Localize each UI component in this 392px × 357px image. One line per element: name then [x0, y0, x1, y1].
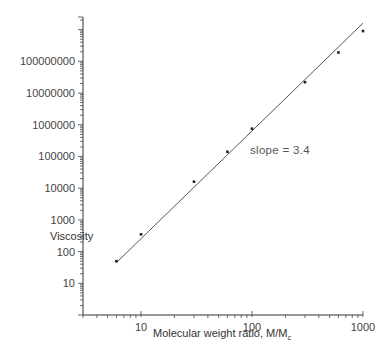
y-tick-label: 1000 [51, 214, 75, 226]
y-tick-label: 100000 [38, 150, 75, 162]
y-tick-label: 100000000 [20, 55, 75, 67]
data-point [193, 180, 196, 183]
slope-annotation: slope = 3.4 [250, 144, 310, 156]
data-point [362, 30, 365, 33]
data-point [304, 81, 307, 84]
data-series [115, 23, 364, 262]
y-tick-label: 100 [57, 246, 75, 258]
y-axis-label: Viscosity [50, 230, 94, 242]
y-tick-label: 10 [63, 277, 75, 289]
y-axis-ticks: 1010010001000010000010000001000000010000… [20, 17, 83, 315]
y-tick-label: 10000 [44, 182, 75, 194]
fit-line [116, 23, 363, 262]
viscosity-vs-molecular-weight-chart: 1010010001000010000010000001000000010000… [0, 0, 392, 357]
axes [83, 17, 363, 315]
x-axis-label: Molecular weight ratio, M/Mc [153, 327, 292, 341]
y-tick-label: 10000000 [26, 87, 75, 99]
x-tick-label: 1000 [351, 321, 375, 333]
data-point [337, 51, 340, 54]
x-axis-label-main: Molecular weight ratio, M/M [153, 327, 288, 339]
data-point [251, 127, 254, 130]
data-point [115, 260, 118, 263]
y-tick-label: 1000000 [32, 119, 75, 131]
data-point [226, 151, 229, 154]
x-tick-label: 10 [135, 321, 147, 333]
data-point [140, 233, 143, 236]
x-axis-label-subscript: c [288, 334, 292, 341]
